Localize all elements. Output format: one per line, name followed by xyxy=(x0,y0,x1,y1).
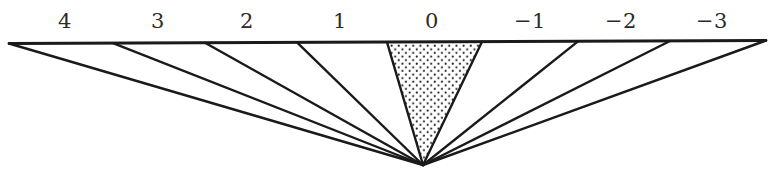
ray-1 xyxy=(113,43,423,165)
axis-tick-label-3: 3 xyxy=(151,11,165,32)
axis-tick-label-minus-3: −3 xyxy=(696,11,728,32)
ray-2 xyxy=(205,43,423,165)
axis-tick-label-2: 2 xyxy=(240,11,254,32)
baseline-axis xyxy=(9,41,766,44)
figure-container: 4 3 2 1 0 −1 −2 −3 xyxy=(0,0,776,179)
axis-tick-label-0: 0 xyxy=(425,11,439,32)
ray-fan-diagram xyxy=(0,0,776,179)
axis-tick-label-minus-2: −2 xyxy=(605,11,637,32)
ray-group xyxy=(9,41,766,166)
axis-tick-label-1: 1 xyxy=(333,11,347,32)
shaded-sector xyxy=(387,43,482,165)
axis-tick-label-minus-1: −1 xyxy=(514,11,546,32)
axis-tick-label-4: 4 xyxy=(58,11,72,32)
